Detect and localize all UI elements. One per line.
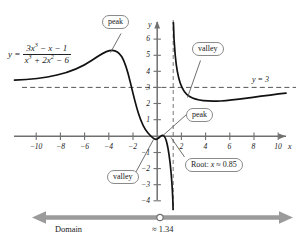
y-tick-label-6: 6 [133, 35, 150, 43]
x-tick-label-4: 4 [198, 143, 213, 151]
equation-denominator: x3 + 2x2 − 6 [23, 55, 71, 65]
domain-excluded-point [157, 214, 163, 220]
equation-fraction: 3x3 − x − 1 x3 + 2x2 − 6 [23, 44, 71, 65]
callout-peak-right: peak [186, 108, 213, 122]
x-tick-label--6: −6 [74, 143, 95, 151]
callout-root-prefix: Root: [191, 160, 211, 169]
x-tick-label-8: 8 [246, 143, 261, 151]
leader-line-peak-left [111, 34, 122, 53]
callout-root-value: ≈ 0.85 [214, 160, 236, 169]
x-tick-label--8: −8 [50, 143, 71, 151]
leader-line-valley-right [188, 61, 201, 98]
y-axis-arrowhead [154, 21, 160, 29]
y-tick-label-3: 3 [133, 84, 150, 92]
leader-line-peak-right [164, 115, 187, 136]
domain-bar [32, 211, 293, 224]
y-tick-label-1: 1 [133, 116, 150, 124]
horizontal-asymptote-label: y = 3 [252, 76, 269, 84]
equation-lhs: y = [8, 50, 20, 59]
y-tick-label-4: 4 [133, 68, 150, 76]
x-tick-label-6: 6 [222, 143, 237, 151]
x-tick-label--4: −4 [98, 143, 119, 151]
callout-root: Root: x ≈ 0.85 [185, 158, 243, 172]
y-tick-label--4: −4 [130, 197, 150, 205]
y-tick-label-5: 5 [133, 51, 150, 59]
y-tick-label--1: −1 [130, 149, 150, 157]
domain-excluded-value: ≈ 1.34 [152, 226, 173, 234]
callout-peak-left: peak [102, 15, 129, 29]
x-axis-arrowhead [279, 133, 287, 139]
x-tick-label-2: 2 [174, 143, 189, 151]
domain-bar-arrow-left [32, 211, 46, 224]
x-tick-label-10: 10 [269, 143, 287, 151]
x-axis-label: x [288, 142, 292, 151]
domain-bar-arrow-right [279, 211, 293, 224]
callout-valley-left: valley [107, 170, 139, 184]
function-equation: y = 3x3 − x − 1 x3 + 2x2 − 6 [8, 44, 71, 65]
function-graph-figure [0, 0, 301, 243]
y-tick-label-2: 2 [133, 100, 150, 108]
y-axis-label: y [148, 20, 152, 29]
callout-valley-right: valley [192, 42, 224, 56]
x-tick-label--10: −10 [25, 143, 47, 151]
domain-bar-label: Domain [55, 226, 82, 234]
